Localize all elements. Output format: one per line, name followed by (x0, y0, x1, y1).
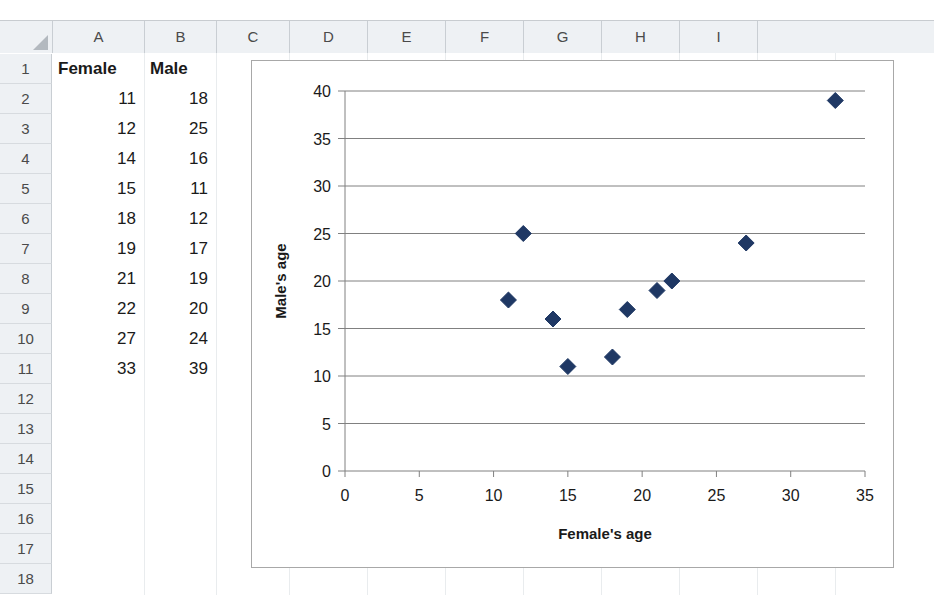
row-header-12[interactable]: 12 (0, 384, 52, 414)
cell-a5[interactable]: 15 (53, 174, 145, 204)
cell-b2[interactable]: 18 (145, 84, 217, 114)
x-axis-tick-label: 0 (341, 487, 350, 504)
y-axis-tick-label: 30 (313, 178, 331, 195)
cell-a11[interactable]: 33 (53, 354, 145, 384)
row-header-11[interactable]: 11 (0, 354, 52, 384)
row-header-15[interactable]: 15 (0, 474, 52, 504)
cell-b5[interactable]: 11 (145, 174, 217, 204)
column-header-h[interactable]: H (602, 21, 680, 53)
column-header-f[interactable]: F (446, 21, 524, 53)
cell-b11[interactable]: 39 (145, 354, 217, 384)
row-header-8[interactable]: 8 (0, 264, 52, 294)
cell-a9[interactable]: 22 (53, 294, 145, 324)
x-axis-tick-label: 25 (708, 487, 726, 504)
spreadsheet-application: A B C D E F G H I 1 2 3 4 5 6 7 8 9 10 1… (0, 0, 934, 601)
row-header-9[interactable]: 9 (0, 294, 52, 324)
cell-a1[interactable]: Female (53, 54, 145, 84)
scatter-point-marker[interactable] (515, 226, 531, 242)
row-header-3[interactable]: 3 (0, 114, 52, 144)
x-axis-tick-label: 15 (559, 487, 577, 504)
column-header-overflow[interactable] (758, 21, 934, 53)
row-header-7[interactable]: 7 (0, 234, 52, 264)
cell-b4[interactable]: 16 (145, 144, 217, 174)
chart-canvas: 051015202530354005101520253035Female's a… (252, 61, 893, 567)
cell-a10[interactable]: 27 (53, 324, 145, 354)
cell-a3[interactable]: 12 (53, 114, 145, 144)
scatter-point-marker[interactable] (500, 292, 516, 308)
column-header-d[interactable]: D (290, 21, 368, 53)
y-axis-tick-label: 10 (313, 368, 331, 385)
scatter-point-marker[interactable] (738, 235, 754, 251)
row-header-6[interactable]: 6 (0, 204, 52, 234)
row-header-16[interactable]: 16 (0, 504, 52, 534)
x-axis-title: Female's age (558, 525, 652, 542)
scatter-point-marker[interactable] (619, 302, 635, 318)
scatter-point-marker[interactable] (560, 359, 576, 375)
row-header-13[interactable]: 13 (0, 414, 52, 444)
scatter-point-marker[interactable] (664, 273, 680, 289)
column-header-i[interactable]: I (680, 21, 758, 53)
cell-b6[interactable]: 12 (145, 204, 217, 234)
row-header-4[interactable]: 4 (0, 144, 52, 174)
cell-a2[interactable]: 11 (53, 84, 145, 114)
y-axis-tick-label: 0 (322, 463, 331, 480)
row-header-5[interactable]: 5 (0, 174, 52, 204)
x-axis-tick-label: 30 (782, 487, 800, 504)
column-header-c[interactable]: C (217, 21, 290, 53)
scatter-point-marker[interactable] (545, 311, 561, 327)
cell-a7[interactable]: 19 (53, 234, 145, 264)
cell-b9[interactable]: 20 (145, 294, 217, 324)
select-all-triangle-icon (33, 35, 48, 50)
cell-b3[interactable]: 25 (145, 114, 217, 144)
cell-a4[interactable]: 14 (53, 144, 145, 174)
x-axis-tick-label: 5 (415, 487, 424, 504)
column-header-e[interactable]: E (368, 21, 446, 53)
x-axis-tick-label: 35 (856, 487, 874, 504)
y-axis-tick-label: 35 (313, 131, 331, 148)
select-all-corner-button[interactable] (0, 21, 53, 53)
column-header-b[interactable]: B (145, 21, 217, 53)
cell-b8[interactable]: 19 (145, 264, 217, 294)
scatter-point-marker[interactable] (604, 349, 620, 365)
y-axis-tick-label: 25 (313, 226, 331, 243)
column-header-a[interactable]: A (53, 21, 145, 53)
scatter-point-marker[interactable] (827, 93, 843, 109)
x-axis-tick-label: 20 (633, 487, 651, 504)
y-axis-tick-label: 20 (313, 273, 331, 290)
row-header-18[interactable]: 18 (0, 564, 52, 594)
row-header-14[interactable]: 14 (0, 444, 52, 474)
x-axis-tick-label: 10 (485, 487, 503, 504)
cell-b10[interactable]: 24 (145, 324, 217, 354)
row-header-2[interactable]: 2 (0, 84, 52, 114)
y-axis-tick-label: 15 (313, 321, 331, 338)
column-header-g[interactable]: G (524, 21, 602, 53)
scatter-point-marker[interactable] (649, 283, 665, 299)
embedded-scatter-chart[interactable]: 051015202530354005101520253035Female's a… (251, 60, 894, 568)
row-header-10[interactable]: 10 (0, 324, 52, 354)
cell-a6[interactable]: 18 (53, 204, 145, 234)
cell-b7[interactable]: 17 (145, 234, 217, 264)
row-header-1[interactable]: 1 (0, 54, 52, 84)
column-header-strip: A B C D E F G H I (0, 20, 934, 53)
cell-a8[interactable]: 21 (53, 264, 145, 294)
y-axis-tick-label: 40 (313, 83, 331, 100)
row-header-17[interactable]: 17 (0, 534, 52, 564)
cell-b1[interactable]: Male (145, 54, 217, 84)
y-axis-tick-label: 5 (322, 416, 331, 433)
y-axis-title: Male's age (272, 243, 289, 318)
